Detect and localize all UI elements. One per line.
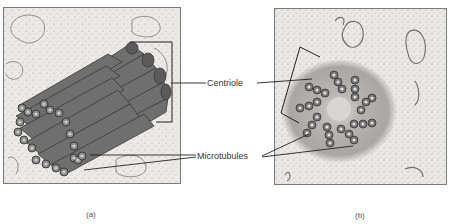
panel-b-micrograph <box>274 8 447 185</box>
panel-b-caption: (b) <box>355 211 365 221</box>
centriole-cross-section <box>275 9 446 184</box>
centriole-3d-drawing <box>4 8 180 183</box>
panel-a-illustration <box>3 7 181 184</box>
microtubules-label: Microtubules <box>197 151 248 161</box>
centriole-label: Centriole <box>207 78 243 88</box>
panel-a-caption: (a) <box>86 210 96 220</box>
